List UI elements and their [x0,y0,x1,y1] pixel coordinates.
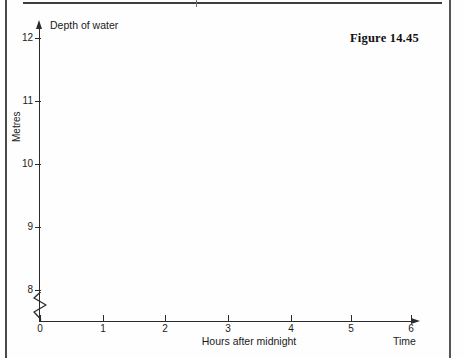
x-axis-tick-label: 6 [401,323,421,334]
y-axis-arrow-icon [36,20,42,29]
y-axis-tick-label: 8 [11,284,33,295]
y-axis-tick [35,164,41,165]
figure-page: Figure 14.45 12 11 10 9 8 0 1 2 3 [0,0,464,358]
page-edge-left-line [5,0,7,358]
x-axis-tick [40,315,41,321]
x-axis-title: Hours after midnight [159,335,339,347]
y-axis-tick-label: 9 [11,221,33,232]
y-axis-unit-label: Metres [11,111,22,142]
page-edge-right-line [449,0,451,358]
x-axis-tick-label: 3 [218,323,238,334]
x-axis-tick-label: 1 [93,323,113,334]
page-top-rule [23,2,442,4]
x-axis-tick [165,315,166,321]
y-axis-tick [35,227,41,228]
x-axis-tick [411,315,412,321]
y-axis-tick [35,290,41,291]
figure-caption: Figure 14.45 [350,31,419,46]
page-top-rule-tick [196,0,197,7]
y-axis-tick-label: 10 [11,158,33,169]
y-axis-tick [35,101,41,102]
x-axis-tick [291,315,292,321]
x-axis-tick [351,315,352,321]
x-axis-unit-label: Time [393,335,416,347]
y-axis-tick-label: 11 [11,95,33,106]
x-axis-origin-label: 0 [30,323,50,334]
x-axis-tick-label: 5 [341,323,361,334]
x-axis-tick [103,315,104,321]
x-axis-tick-label: 4 [281,323,301,334]
y-axis-tick [35,38,41,39]
x-axis-tick [228,315,229,321]
y-axis-title: Depth of water [50,19,118,31]
y-axis-line [39,28,40,322]
y-axis-tick-label: 12 [11,32,33,43]
x-axis-tick-label: 2 [155,323,175,334]
